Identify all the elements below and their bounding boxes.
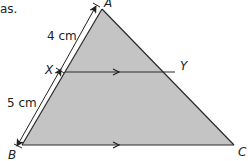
vertex-c-label: C [238,145,247,159]
measurement-ax-label: 4 cm [47,29,77,43]
triangle-diagram: as. 4 cm 5 cm A B C X Y [0,0,248,161]
vertex-b-label: B [8,148,16,161]
point-x-label: X [44,63,54,77]
caption-fragment: as. [0,2,17,16]
point-y-label: Y [180,59,189,73]
vertex-a-label: A [103,0,112,10]
measurement-xb-label: 5 cm [7,96,37,110]
tick-a-icon [93,3,100,7]
tick-x-icon [56,68,64,73]
